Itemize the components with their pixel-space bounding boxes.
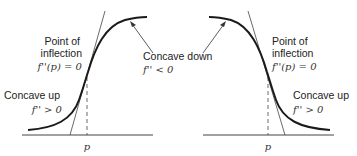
right-concave-down-arrow <box>203 24 224 53</box>
left-inflection-condition: f''(p) = 0 <box>36 61 82 72</box>
right-inflection-condition: f''(p) = 0 <box>271 61 317 72</box>
right-concave-up-condition: f'' > 0 <box>292 104 324 115</box>
inflection-diagram: Point of inflection f''(p) = 0 Concave u… <box>0 0 357 156</box>
right-p-label: p <box>265 141 272 152</box>
right-panel: Point of inflection f''(p) = 0 Concave u… <box>203 11 349 152</box>
right-arrowhead-icon <box>220 21 226 27</box>
left-inflection-label-2: inflection <box>41 47 83 59</box>
left-concave-up-condition: f'' > 0 <box>31 104 63 115</box>
left-p-label: p <box>84 141 91 152</box>
right-inflection-label-2: inflection <box>272 47 314 59</box>
right-inflection-label-1: Point of <box>272 35 308 47</box>
left-concave-down-arrow <box>132 24 153 53</box>
left-panel: Point of inflection f''(p) = 0 Concave u… <box>4 11 213 152</box>
left-inflection-label-1: Point of <box>44 35 80 47</box>
right-concave-up-label: Concave up <box>293 89 349 101</box>
left-concave-down-label: Concave down <box>143 50 213 62</box>
left-arrowhead-icon <box>130 21 136 27</box>
left-concave-down-condition: f'' < 0 <box>142 64 174 75</box>
left-concave-up-label: Concave up <box>4 89 60 101</box>
